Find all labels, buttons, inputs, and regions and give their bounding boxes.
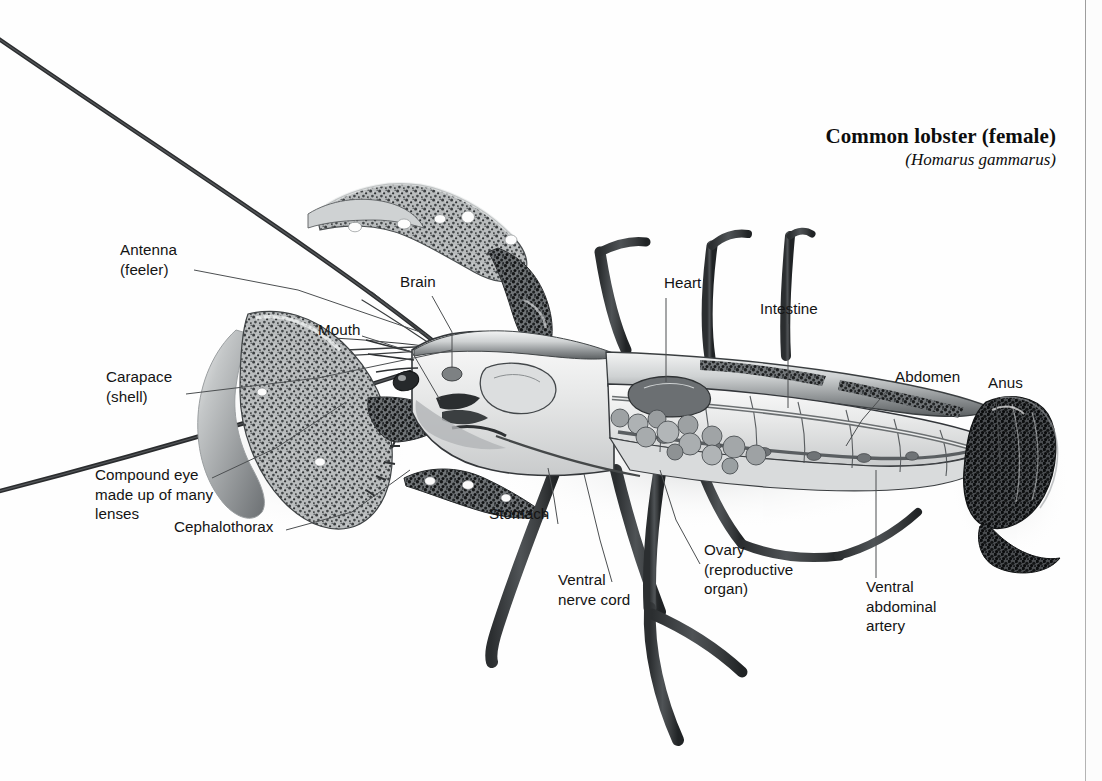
- brain-organ: [442, 367, 462, 381]
- label-abdomen: Abdomen: [895, 367, 960, 387]
- label-ovary: Ovary (reproductive organ): [704, 540, 793, 599]
- label-cephalothorax: Cephalothorax: [174, 517, 273, 537]
- scientific-name: (Homarus gammarus): [796, 150, 1056, 170]
- label-ventral-artery: Ventral abdominal artery: [866, 577, 937, 636]
- label-compound-eye: Compound eye made up of many lenses: [95, 465, 213, 524]
- label-mouth: Mouth: [318, 320, 360, 340]
- label-ventral-nerve: Ventral nerve cord: [558, 570, 630, 609]
- illustration-page: Common lobster (female) (Homarus gammaru…: [0, 0, 1102, 781]
- label-intestine: Intestine: [760, 299, 818, 319]
- heart-organ: [628, 377, 710, 417]
- label-heart: Heart: [664, 273, 701, 293]
- common-name: Common lobster (female): [796, 124, 1056, 149]
- label-antenna: Antenna (feeler): [120, 240, 177, 279]
- specimen-title: Common lobster (female) (Homarus gammaru…: [796, 124, 1056, 170]
- label-stomach: Stomach: [489, 504, 549, 524]
- vertical-rule: [1085, 0, 1086, 781]
- claw-lower: [198, 311, 452, 529]
- label-anus: Anus: [988, 373, 1023, 393]
- right-margin: [1086, 0, 1102, 781]
- label-carapace: Carapace (shell): [106, 367, 172, 406]
- label-brain: Brain: [400, 272, 436, 292]
